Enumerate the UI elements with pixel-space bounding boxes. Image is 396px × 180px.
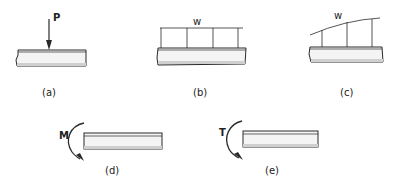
beam-a [16,50,86,66]
panel-d-moment: M (d) [59,123,162,176]
symbol-m: M [59,130,69,141]
symbol-t: T [219,127,226,138]
beam-e [243,131,318,147]
panel-c-varying-load: w (c) [309,10,383,98]
beam-loading-diagram: P (a) w (b) w ( [0,0,396,180]
caption-c: (c) [340,87,353,98]
caption-e: (e) [265,165,279,176]
panel-b-uniform-load: w (b) [157,16,246,98]
symbol-p: P [53,12,60,23]
beam-d [84,133,162,149]
varying-load-w [310,18,380,47]
symbol-w-varying: w [334,10,342,21]
caption-a: (a) [42,87,56,98]
symbol-w-uniform: w [193,16,201,27]
beam-c [309,47,383,62]
beam-b [157,48,246,65]
caption-b: (b) [193,87,207,98]
moment-arrow-icon [68,123,84,159]
panel-e-torque: T (e) [219,121,318,176]
distributed-load-w [160,28,243,48]
load-arrow-p [46,19,52,50]
caption-d: (d) [105,165,119,176]
torque-arrow-icon [227,121,242,158]
panel-a-concentrated-load: P (a) [16,12,86,98]
